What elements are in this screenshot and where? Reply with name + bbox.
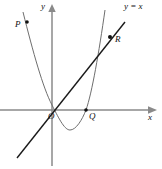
point-R-label: R — [115, 35, 121, 44]
identity-line-label: y = x — [124, 2, 143, 11]
y-axis-arrow-icon — [48, 4, 55, 12]
identity-line — [17, 22, 125, 158]
point-R-dot — [108, 35, 112, 39]
x-axis-label: x — [148, 113, 152, 122]
point-P-dot — [25, 20, 29, 24]
figure-canvas — [0, 0, 162, 169]
point-P-label: P — [15, 20, 21, 29]
point-Q-dot — [84, 108, 88, 112]
origin-label: O — [48, 112, 55, 121]
math-figure: y x O y = x P Q R — [0, 0, 162, 169]
point-Q-label: Q — [89, 112, 96, 121]
y-axis-label: y — [41, 2, 45, 11]
